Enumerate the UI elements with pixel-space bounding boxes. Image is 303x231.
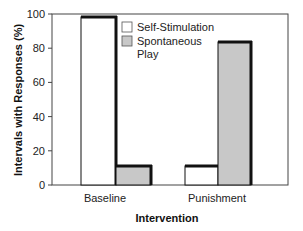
bar-baseline-spontaneous-play — [116, 166, 151, 185]
bar-punishment-spontaneous-play — [218, 42, 251, 185]
y-tick-100: 100 — [27, 8, 45, 20]
bar-chart: 0 20 40 60 80 100 Intervals with Respons… — [0, 0, 303, 231]
legend-swatch-self-stimulation — [122, 22, 132, 32]
legend-swatch-spontaneous-play — [122, 36, 132, 46]
y-tick-20: 20 — [33, 145, 45, 157]
category-label-baseline: Baseline — [84, 192, 126, 204]
bar-baseline-self-stimulation — [81, 17, 116, 185]
legend-label-spontaneous-play-1: Spontaneous — [137, 35, 202, 47]
x-axis-title: Intervention — [136, 212, 199, 224]
y-tick-40: 40 — [33, 111, 45, 123]
bar-punishment-self-stimulation — [185, 166, 218, 185]
category-label-punishment: Punishment — [188, 192, 246, 204]
y-tick-80: 80 — [33, 42, 45, 54]
y-tick-60: 60 — [33, 76, 45, 88]
y-axis-title: Intervals with Responses (%) — [12, 24, 24, 177]
y-axis: 0 20 40 60 80 100 — [27, 8, 52, 191]
legend-label-spontaneous-play-2: Play — [137, 48, 159, 60]
legend-label-self-stimulation: Self-Stimulation — [137, 21, 214, 33]
y-tick-0: 0 — [39, 179, 45, 191]
